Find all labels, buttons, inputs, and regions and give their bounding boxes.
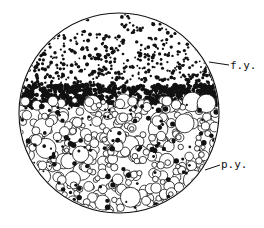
label-py: p.y. (221, 159, 248, 171)
cell-diagram (0, 0, 264, 228)
label-fy: f.y. (230, 60, 257, 72)
py-pointer-line (205, 165, 220, 170)
fy-pointer-line (209, 62, 229, 65)
